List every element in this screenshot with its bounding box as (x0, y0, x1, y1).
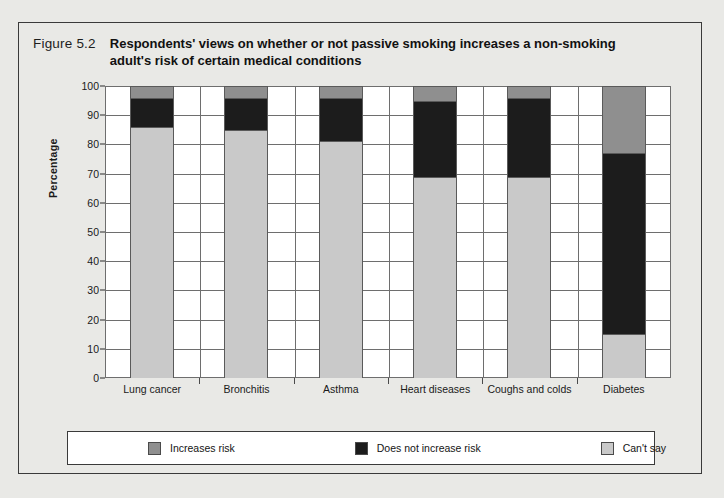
chart-plot-area: Percentage 0102030405060708090100 Lung c… (19, 23, 703, 475)
legend-label: Can't say (623, 442, 666, 454)
x-axis-label: Bronchitis (199, 383, 293, 395)
x-axis-label: Diabetes (577, 383, 671, 395)
bar-slot (577, 86, 671, 378)
y-tick-label: 40 (87, 255, 99, 267)
y-axis-ticks: 0102030405060708090100 (59, 86, 105, 378)
legend-item[interactable]: Does not increase risk (355, 442, 481, 455)
x-axis-label: Asthma (294, 383, 388, 395)
y-tick-label: 70 (87, 168, 99, 180)
bar-segment (508, 98, 550, 177)
bar-slot (105, 86, 199, 378)
bar-slot (482, 86, 576, 378)
cant-say-swatch (601, 442, 614, 455)
stacked-bar[interactable] (224, 86, 268, 378)
y-tick-label: 60 (87, 197, 99, 209)
x-axis-label: Heart diseases (388, 383, 482, 395)
bar-segment (320, 141, 362, 378)
y-tick-label: 20 (87, 314, 99, 326)
x-axis-label: Coughs and colds (482, 383, 576, 395)
bar-segment (225, 130, 267, 378)
chart-bars (105, 86, 671, 378)
bar-segment (131, 127, 173, 378)
bar-segment (131, 98, 173, 127)
bar-segment (508, 177, 550, 378)
legend-label: Increases risk (170, 442, 235, 454)
bar-segment (414, 177, 456, 378)
bar-segment (414, 86, 456, 101)
y-tick-label: 100 (81, 80, 99, 92)
legend-item[interactable]: Increases risk (148, 442, 235, 455)
y-tick-label: 90 (87, 109, 99, 121)
bar-segment (603, 334, 645, 378)
legend-label: Does not increase risk (377, 442, 481, 454)
bar-segment (320, 86, 362, 98)
y-tick-label: 80 (87, 138, 99, 150)
bar-segment (508, 86, 550, 98)
bar-segment (603, 86, 645, 153)
bar-segment (225, 98, 267, 130)
does-not-increase-risk-swatch (355, 442, 368, 455)
y-tick-label: 0 (93, 372, 99, 384)
y-tick-label: 50 (87, 226, 99, 238)
x-axis-labels: Lung cancerBronchitisAsthmaHeart disease… (105, 383, 671, 395)
bar-segment (320, 98, 362, 142)
stacked-bar[interactable] (507, 86, 551, 378)
y-tick-label: 30 (87, 284, 99, 296)
x-axis-label: Lung cancer (105, 383, 199, 395)
bar-segment (603, 153, 645, 334)
legend-item[interactable]: Can't say (601, 442, 666, 455)
bar-slot (199, 86, 293, 378)
increases-risk-swatch (148, 442, 161, 455)
bar-segment (225, 86, 267, 98)
stacked-bar[interactable] (602, 86, 646, 378)
chart-legend: Increases riskDoes not increase riskCan'… (67, 431, 655, 465)
stacked-bar[interactable] (413, 86, 457, 378)
figure-frame: Figure 5.2 Respondents' views on whether… (18, 22, 702, 474)
stacked-bar[interactable] (319, 86, 363, 378)
bar-slot (294, 86, 388, 378)
stacked-bar[interactable] (130, 86, 174, 378)
bar-segment (414, 101, 456, 177)
figure-page: Figure 5.2 Respondents' views on whether… (0, 0, 724, 498)
y-axis-title: Percentage (47, 138, 59, 198)
y-tick-label: 10 (87, 343, 99, 355)
bar-segment (131, 86, 173, 98)
bar-slot (388, 86, 482, 378)
